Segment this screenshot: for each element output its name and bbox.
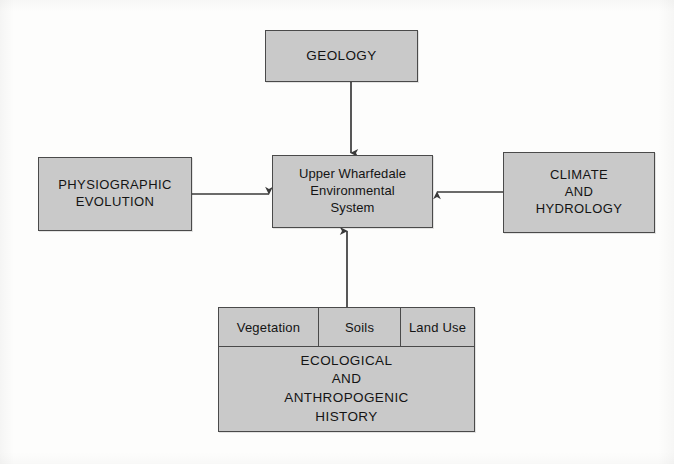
node-climate-and-hydrology-label: CLIMATE AND HYDROLOGY <box>504 167 654 218</box>
diagram-canvas: GEOLOGY PHYSIOGRAPHIC EVOLUTION Upper Wh… <box>0 0 674 464</box>
node-geology[interactable]: GEOLOGY <box>265 30 418 82</box>
node-upper-wharfedale-environmental-system-label: Upper Wharfedale Environmental System <box>273 166 432 217</box>
ecological-subcell-land-use[interactable]: Land Use <box>401 308 474 346</box>
ecological-subcell-soils-label: Soils <box>345 320 374 335</box>
node-geology-label: GEOLOGY <box>266 47 417 65</box>
ecological-body: ECOLOGICAL AND ANTHROPOGENIC HISTORY <box>219 347 474 431</box>
ecological-subcell-vegetation-label: Vegetation <box>237 320 300 335</box>
ecological-subcell-soils[interactable]: Soils <box>319 308 401 346</box>
node-upper-wharfedale-environmental-system[interactable]: Upper Wharfedale Environmental System <box>272 155 433 228</box>
ecological-subcell-vegetation[interactable]: Vegetation <box>219 308 319 346</box>
ecological-subcell-row: Vegetation Soils Land Use <box>219 308 474 347</box>
node-climate-and-hydrology[interactable]: CLIMATE AND HYDROLOGY <box>503 152 655 233</box>
node-ecological-and-anthropogenic-history[interactable]: Vegetation Soils Land Use ECOLOGICAL AND… <box>218 307 475 432</box>
node-physiographic-evolution[interactable]: PHYSIOGRAPHIC EVOLUTION <box>38 157 192 231</box>
node-physiographic-evolution-label: PHYSIOGRAPHIC EVOLUTION <box>39 177 191 211</box>
node-ecological-and-anthropogenic-history-label: ECOLOGICAL AND ANTHROPOGENIC HISTORY <box>219 352 474 427</box>
ecological-subcell-land-use-label: Land Use <box>409 320 466 335</box>
